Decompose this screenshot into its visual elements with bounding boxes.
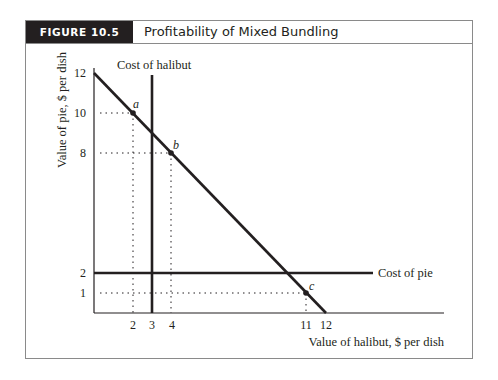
point-c-label: c bbox=[309, 279, 315, 293]
x-tick-4: 4 bbox=[169, 318, 175, 332]
point-b-label: b bbox=[173, 138, 179, 152]
chart-plot: a b c Cost of halibut Cost of pie 12 10 … bbox=[0, 0, 498, 380]
point-a bbox=[130, 110, 136, 116]
bundle-price-line bbox=[94, 73, 326, 313]
y-tick-12: 12 bbox=[74, 66, 86, 80]
cost-of-pie-label: Cost of pie bbox=[378, 266, 433, 280]
y-tick-labels: 12 10 8 2 1 bbox=[74, 66, 86, 300]
dotted-guides bbox=[100, 113, 306, 313]
point-c bbox=[303, 290, 309, 296]
x-axis-label: Value of halibut, $ per dish bbox=[309, 335, 445, 349]
y-axis-label: Value of pie, $ per dish bbox=[55, 51, 69, 168]
x-tick-2: 2 bbox=[130, 318, 136, 332]
x-tick-3: 3 bbox=[149, 318, 155, 332]
y-tick-8: 8 bbox=[80, 146, 86, 160]
x-tick-11: 11 bbox=[300, 318, 312, 332]
y-tick-1: 1 bbox=[80, 286, 86, 300]
y-tick-10: 10 bbox=[74, 106, 86, 120]
y-tick-2: 2 bbox=[80, 266, 86, 280]
x-tick-labels: 2 3 4 11 12 bbox=[130, 318, 332, 332]
x-tick-12: 12 bbox=[320, 318, 332, 332]
cost-of-halibut-label: Cost of halibut bbox=[117, 58, 192, 72]
point-a-label: a bbox=[133, 97, 139, 111]
